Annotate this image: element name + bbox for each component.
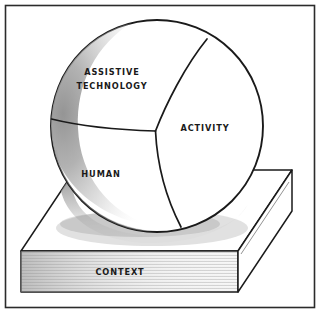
three-segment-sphere: [51, 20, 263, 232]
haat-model-figure: ASSISTIVE TECHNOLOGY ACTIVITY HUMAN CONT…: [0, 0, 320, 313]
label-activity: ACTIVITY: [180, 123, 229, 133]
diagram-canvas: ASSISTIVE TECHNOLOGY ACTIVITY HUMAN CONT…: [0, 0, 320, 313]
label-human: HUMAN: [81, 169, 120, 179]
label-assistive-technology-line1: ASSISTIVE: [84, 67, 139, 77]
label-context: CONTEXT: [95, 267, 144, 277]
label-assistive-technology-line2: TECHNOLOGY: [76, 81, 147, 91]
